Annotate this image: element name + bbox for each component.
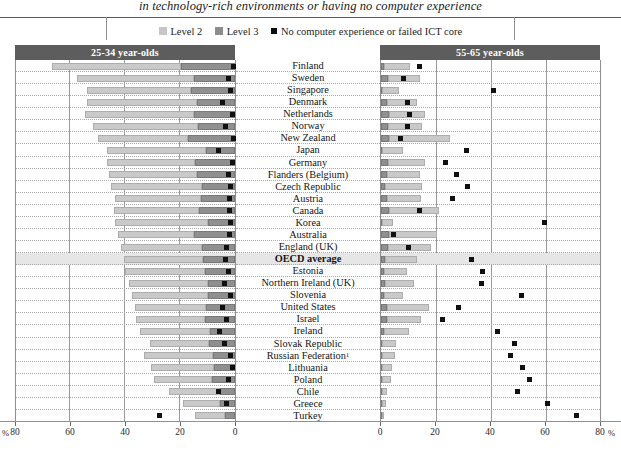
legend-label-level2: Level 2 <box>170 26 202 37</box>
stacked-bar-young <box>195 412 235 419</box>
stacked-bar-old <box>381 147 403 154</box>
no-computer-marker-old <box>519 293 524 298</box>
bar-segment-level2 <box>387 304 430 311</box>
no-computer-marker-old <box>542 220 547 225</box>
bar-row-young <box>16 132 235 144</box>
panel-header-young: 25-34 year-olds <box>15 45 235 60</box>
bar-row-old <box>381 313 600 325</box>
x-axis-young: 806040200% <box>0 422 250 444</box>
bar-row-old <box>381 325 600 337</box>
bar-row-old <box>381 144 600 156</box>
country-label: Korea <box>236 217 380 229</box>
legend-item-level3: Level 3 <box>215 26 258 37</box>
bar-segment-level2 <box>124 256 204 263</box>
bar-segment-level2 <box>107 159 195 166</box>
bar-row-young <box>16 398 235 410</box>
bar-row-young <box>16 241 235 253</box>
stacked-bar-young <box>118 231 235 238</box>
stacked-bar-young <box>98 135 236 142</box>
bar-segment-level2 <box>98 135 189 142</box>
no-computer-marker-young <box>230 365 235 370</box>
stacked-bar-young <box>85 111 235 118</box>
bar-row-young <box>16 108 235 120</box>
bar-row-young <box>16 193 235 205</box>
bar-segment-level2 <box>387 316 421 323</box>
stacked-bar-old <box>381 376 391 383</box>
bar-row-young <box>16 265 235 277</box>
bar-segment-level2 <box>132 292 208 299</box>
no-computer-marker-young <box>227 232 232 237</box>
bar-segment-level2 <box>382 388 388 395</box>
bar-row-old <box>381 72 600 84</box>
no-computer-marker-old <box>469 257 474 262</box>
bar-segment-level3 <box>198 123 235 130</box>
no-computer-marker-old <box>450 196 455 201</box>
no-computer-marker-young <box>222 341 227 346</box>
bar-segment-level2 <box>129 280 207 287</box>
title-divider <box>0 17 621 18</box>
country-label: Northern Ireland (UK) <box>236 277 380 289</box>
stacked-bar-old <box>381 268 407 275</box>
no-computer-marker-young <box>223 124 228 129</box>
bar-row-young <box>16 169 235 181</box>
bar-row-young <box>16 181 235 193</box>
stacked-bar-old <box>381 135 450 142</box>
stacked-bar-old <box>381 87 399 94</box>
chart-legend: Level 2 Level 3 No computer experience o… <box>0 22 621 40</box>
stacked-bar-old <box>381 256 417 263</box>
stacked-bar-old <box>381 99 417 106</box>
no-computer-marker-young <box>228 353 233 358</box>
no-computer-marker-young <box>216 148 221 153</box>
stacked-bar-young <box>132 292 235 299</box>
bar-segment-level3 <box>197 99 236 106</box>
stacked-bar-young <box>124 256 235 263</box>
bar-row-young <box>16 120 235 132</box>
country-label: Germany <box>236 157 380 169</box>
bar-segment-level2 <box>52 63 181 70</box>
plot-area-young <box>15 60 236 422</box>
bar-segment-level2 <box>385 280 414 287</box>
bar-row-young <box>16 362 235 374</box>
bar-segment-level2 <box>387 171 420 178</box>
bar-segment-level2 <box>85 111 194 118</box>
country-label: Russian Federation1 <box>236 350 380 362</box>
axis-tick-old-20 <box>435 422 436 426</box>
bar-segment-level2 <box>388 159 425 166</box>
stacked-bar-young <box>107 159 235 166</box>
country-label: Japan <box>236 144 380 156</box>
bar-segment-level3 <box>225 412 235 419</box>
bar-segment-level2 <box>121 244 202 251</box>
axis-tick-label-old-20: 20 <box>430 427 440 437</box>
no-computer-marker-old <box>405 124 410 129</box>
stacked-bar-young <box>93 123 235 130</box>
bar-row-young <box>16 325 235 337</box>
stacked-bar-young <box>114 207 235 214</box>
square-swatch-dark-icon <box>215 27 223 35</box>
bar-segment-level3 <box>381 244 388 251</box>
bar-row-young <box>16 205 235 217</box>
stacked-bar-young <box>169 388 235 395</box>
stacked-bar-old <box>381 207 439 214</box>
no-computer-marker-old <box>417 64 422 69</box>
no-computer-marker-old <box>443 160 448 165</box>
no-computer-marker-old <box>456 305 461 310</box>
bar-segment-level3 <box>210 328 235 335</box>
no-computer-marker-young <box>157 413 162 418</box>
bar-segment-level3 <box>381 207 389 214</box>
stacked-bar-old <box>381 195 421 202</box>
bar-segment-level3 <box>381 123 388 130</box>
bar-segment-level2 <box>183 400 220 407</box>
no-computer-marker-young <box>228 184 233 189</box>
country-label: Finland <box>236 60 380 72</box>
no-computer-marker-old <box>512 341 517 346</box>
no-computer-marker-young <box>230 112 235 117</box>
country-label-column: FinlandSwedenSingaporeDenmarkNetherlands… <box>236 60 380 422</box>
axis-tick-label-old-0: 0 <box>378 427 383 437</box>
bar-segment-level3 <box>212 376 235 383</box>
legend-label-level3: Level 3 <box>227 26 259 37</box>
chart-title: in technology-rich environments or havin… <box>0 0 621 14</box>
bar-row-old <box>381 241 600 253</box>
stacked-bar-young <box>115 195 235 202</box>
no-computer-marker-young <box>220 100 225 105</box>
bar-row-old <box>381 374 600 386</box>
